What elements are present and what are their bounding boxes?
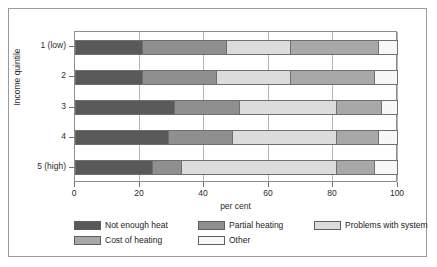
bar-segment: [382, 100, 398, 115]
bar-segment: [75, 40, 143, 55]
bar-segment: [375, 160, 398, 175]
y-axis-tick-label: 4: [61, 131, 66, 141]
legend-label: Problems with system: [345, 220, 428, 230]
y-axis-labels: 1 (low)2345 (high): [0, 0, 66, 267]
legend-label: Other: [229, 235, 250, 245]
plot-area: [74, 31, 397, 182]
bar-segment: [375, 70, 398, 85]
y-axis-tick: [69, 46, 74, 47]
x-axis-tick-label: 40: [198, 188, 207, 198]
legend-item: Not enough heat: [74, 220, 168, 230]
legend-item: Partial heating: [198, 220, 283, 230]
x-axis-tick-label: 80: [327, 188, 336, 198]
x-axis-tick: [139, 182, 140, 187]
bar-segment: [169, 130, 234, 145]
y-axis-tick-label: 3: [61, 101, 66, 111]
y-axis-tick-label: 2: [61, 70, 66, 80]
bar-4: [75, 130, 398, 145]
legend-label: Partial heating: [229, 220, 283, 230]
bar-segment: [240, 100, 337, 115]
y-axis-tick-label: 1 (low): [40, 40, 66, 50]
bar-segment: [337, 130, 379, 145]
bar-segment: [379, 130, 398, 145]
y-axis-tick: [69, 167, 74, 168]
x-axis-tick: [397, 182, 398, 187]
legend-item: Cost of heating: [74, 235, 162, 245]
x-axis-tick-label: 60: [263, 188, 272, 198]
x-axis-tick-label: 100: [390, 188, 404, 198]
y-axis-tick-label: 5 (high): [37, 161, 66, 171]
x-axis-tick: [74, 182, 75, 187]
chart-figure: Income quintile 1 (low)2345 (high) per c…: [0, 0, 437, 267]
legend-swatch: [198, 221, 225, 230]
x-axis-title: per cent: [74, 201, 397, 211]
bar-segment: [75, 100, 175, 115]
bar-segment: [143, 40, 227, 55]
bar-segment: [143, 70, 217, 85]
bar-segment: [337, 100, 382, 115]
bar-3: [75, 100, 398, 115]
bar-segment: [337, 160, 376, 175]
y-axis-tick: [69, 76, 74, 77]
y-axis-tick: [69, 107, 74, 108]
bar-segment: [217, 70, 291, 85]
bar-segment: [153, 160, 182, 175]
bar-segment: [75, 70, 143, 85]
bar-segment: [75, 130, 169, 145]
bar-1: [75, 40, 398, 55]
chart-legend: Not enough heatPartial heatingProblems w…: [74, 220, 404, 252]
y-axis-tick: [69, 137, 74, 138]
x-axis-tick: [332, 182, 333, 187]
bar-segment: [291, 40, 378, 55]
legend-swatch: [74, 221, 101, 230]
bar-2: [75, 70, 398, 85]
legend-swatch: [314, 221, 341, 230]
bar-segment: [233, 130, 336, 145]
bar-segment: [75, 160, 153, 175]
x-axis-tick: [203, 182, 204, 187]
legend-label: Not enough heat: [105, 220, 168, 230]
bar-segment: [291, 70, 375, 85]
bar-segment: [227, 40, 292, 55]
legend-item: Other: [198, 235, 250, 245]
x-axis-tick-label: 20: [134, 188, 143, 198]
bar-5: [75, 160, 398, 175]
legend-swatch: [74, 236, 101, 245]
legend-item: Problems with system: [314, 220, 428, 230]
legend-swatch: [198, 236, 225, 245]
bar-segment: [182, 160, 337, 175]
bar-segment: [379, 40, 398, 55]
legend-label: Cost of heating: [105, 235, 162, 245]
x-axis-tick-label: 0: [72, 188, 77, 198]
bar-segment: [175, 100, 240, 115]
x-axis-tick: [268, 182, 269, 187]
